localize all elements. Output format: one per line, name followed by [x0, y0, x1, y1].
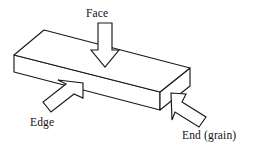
edge-label: Edge [30, 117, 54, 129]
face-label: Face [86, 8, 108, 20]
wood-board-diagram: Face Edge End (grain) [0, 0, 256, 149]
up-left-arrow-icon [171, 93, 206, 127]
end-grain-label: End (grain) [182, 130, 236, 142]
end-arrow [171, 93, 206, 127]
